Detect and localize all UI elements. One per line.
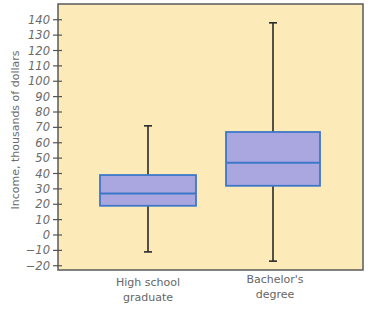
y-tick-label: 50 — [35, 151, 50, 165]
y-tick-label: 90 — [35, 90, 50, 104]
x-category-label: Bachelor's — [246, 273, 303, 286]
x-category-label: degree — [256, 288, 295, 301]
y-tick-label: 0 — [43, 228, 50, 242]
y-tick-label: 100 — [28, 74, 50, 88]
y-tick-label: 10 — [35, 213, 50, 227]
box-plot-chart: −20−100102030405060708090100110120130140… — [0, 0, 374, 313]
iqr-box — [100, 175, 196, 206]
y-tick-label: 20 — [35, 197, 50, 211]
x-category-label: High school — [116, 276, 180, 289]
y-tick-label: 70 — [35, 120, 50, 134]
y-tick-label: −20 — [26, 259, 50, 273]
y-tick-label: 60 — [35, 136, 50, 150]
y-axis-label: Income, thousands of dollars — [9, 50, 22, 209]
y-tick-label: 110 — [28, 59, 50, 73]
x-category-label: graduate — [123, 291, 173, 304]
y-tick-label: −10 — [26, 243, 50, 257]
iqr-box — [226, 132, 320, 186]
x-axis-labels: High schoolgraduateBachelor'sdegree — [116, 273, 304, 304]
y-tick-label: 40 — [35, 167, 50, 181]
y-tick-label: 120 — [28, 44, 50, 58]
y-tick-label: 80 — [35, 105, 50, 119]
y-tick-label: 130 — [28, 28, 50, 42]
y-tick-label: 30 — [35, 182, 50, 196]
y-axis: −20−100102030405060708090100110120130140 — [26, 13, 62, 273]
y-tick-label: 140 — [28, 13, 50, 27]
